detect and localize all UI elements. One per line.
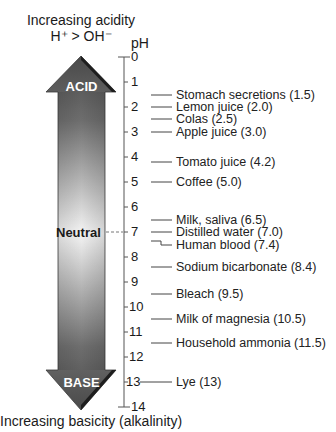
base-label: BASE: [48, 375, 115, 390]
tick-label: 7: [131, 225, 138, 239]
tick-label: 3: [131, 125, 138, 139]
tick-label: 11: [129, 325, 143, 339]
tick-label: 12: [129, 350, 143, 364]
item-household-ammonia: Household ammonia (11.5): [176, 336, 326, 350]
tick-label: 6: [131, 200, 138, 214]
item-sodium-bicarbonate: Sodium bicarbonate (8.4): [176, 260, 316, 274]
item-coffee: Coffee (5.0): [176, 175, 242, 189]
item-bleach: Bleach (9.5): [176, 287, 243, 301]
ph-scale-graphic: [0, 0, 336, 432]
tick-label: 4: [131, 150, 138, 164]
item-lye: Lye (13): [176, 375, 221, 389]
tick-label: 5: [131, 175, 138, 189]
title-increasing-basicity: Increasing basicity (alkalinity): [0, 413, 182, 429]
item-distilled-water: Distilled water (7.0): [176, 225, 283, 239]
tick-label: 10: [129, 300, 143, 314]
item-human-blood: Human blood (7.4): [176, 238, 280, 252]
tick-label: 9: [131, 275, 138, 289]
item-milk-of-magnesia: Milk of magnesia (10.5): [176, 312, 306, 326]
tick-label: 14: [131, 400, 145, 414]
tick-label: 0: [131, 50, 138, 64]
item-colas: Colas (2.5): [176, 112, 237, 126]
item-tomato-juice: Tomato juice (4.2): [176, 155, 275, 169]
acid-label: ACID: [48, 79, 115, 94]
neutral-label: Neutral: [56, 225, 101, 240]
tick-label: 13: [126, 375, 140, 389]
tick-label: 2: [131, 100, 138, 114]
item-connectors: [140, 95, 172, 382]
item-apple-juice: Apple juice (3.0): [176, 125, 266, 139]
tick-label: 1: [131, 75, 138, 89]
tick-label: 8: [131, 250, 138, 264]
